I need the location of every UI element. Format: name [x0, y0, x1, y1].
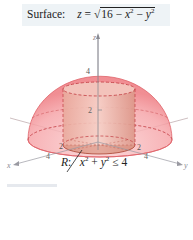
- leq-sign: ≤: [112, 156, 118, 168]
- y-axis-label: y: [183, 161, 188, 170]
- y-arrow-icon: [177, 161, 183, 166]
- region-label: R: x2 + y2 ≤ 4: [61, 155, 127, 168]
- x-arrow-icon: [13, 161, 19, 166]
- region-name: R: [61, 156, 68, 168]
- y-tick-label-4: 4: [144, 152, 148, 161]
- plus-sign: +: [91, 156, 98, 168]
- y-tick-label-2: 2: [137, 143, 141, 152]
- cylinder-top: [63, 82, 135, 96]
- x-tick-label-2: 2: [59, 142, 63, 151]
- colon: :: [68, 156, 71, 168]
- z-arrow-icon: [96, 33, 100, 39]
- x-axis-label: x: [6, 161, 11, 170]
- x-tick-label-4: 4: [46, 152, 50, 161]
- z-tick-label-2: 2: [88, 106, 92, 115]
- bound: 4: [121, 156, 127, 168]
- cylinder-body: [63, 89, 135, 154]
- y-exponent: 2: [106, 155, 110, 163]
- z-tick-label-4: 4: [86, 67, 90, 76]
- z-axis-label: z: [92, 33, 97, 42]
- faint-caption: [7, 184, 57, 187]
- x-exponent: 2: [85, 155, 89, 163]
